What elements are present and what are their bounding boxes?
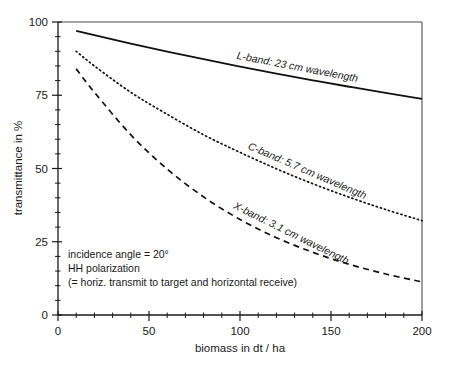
annotation-line: HH polarization [68, 262, 140, 274]
transmittance-vs-biomass-chart: 0255075100 transmittance in % 0501001502… [0, 0, 462, 374]
x-tick-label: 150 [321, 325, 340, 337]
x-tick-label: 0 [55, 325, 61, 337]
x-axis-title: biomass in dt / ha [195, 342, 286, 354]
y-tick-label: 50 [35, 163, 48, 175]
annotation-line: (= horiz. transmit to target and horizon… [68, 276, 297, 288]
chart-background [0, 0, 462, 374]
y-tick-label: 75 [35, 89, 48, 101]
y-tick-label: 0 [42, 309, 48, 321]
y-axis-title: transmittance in % [12, 121, 24, 216]
x-tick-label: 50 [143, 325, 156, 337]
y-tick-label: 100 [29, 16, 48, 28]
annotation-line: incidence angle = 20° [68, 248, 169, 260]
x-tick-label: 100 [230, 325, 249, 337]
y-tick-label: 25 [35, 236, 48, 248]
x-tick-label: 200 [412, 325, 431, 337]
chart-canvas: 0255075100 transmittance in % 0501001502… [0, 0, 462, 374]
